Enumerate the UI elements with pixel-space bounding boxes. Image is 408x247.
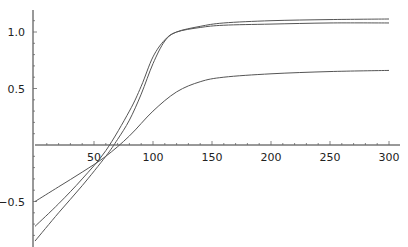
x-tick-label: 300 <box>379 151 400 164</box>
series-line-curve-2 <box>35 19 389 241</box>
y-tick-label: 0.5 <box>8 83 26 96</box>
x-tick-label: 200 <box>261 151 282 164</box>
x-tick-label: 50 <box>87 151 101 164</box>
tick-labels: 50100150200250300−0.50.51.0 <box>0 26 400 209</box>
y-tick-label: 1.0 <box>8 26 26 39</box>
line-chart: 50100150200250300−0.50.51.0 <box>0 0 408 247</box>
series-line-curve-3 <box>35 70 389 201</box>
x-tick-label: 150 <box>202 151 223 164</box>
x-tick-label: 100 <box>143 151 164 164</box>
axes <box>33 10 400 247</box>
x-tick-label: 250 <box>320 151 341 164</box>
data-series <box>35 19 389 241</box>
axis-ticks <box>33 21 389 236</box>
y-tick-label: −0.5 <box>0 196 25 209</box>
series-line-curve-1 <box>35 23 389 226</box>
